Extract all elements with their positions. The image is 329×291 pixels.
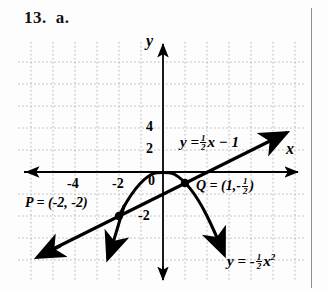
parabola-eq-exponent: 2 [271,252,276,262]
parabola-eq-lhs: y = - [227,253,255,269]
y-tick-2: 2 [146,141,153,157]
page-edge-rule [311,8,312,288]
y-axis-label: y [146,32,153,50]
x-tick-0: 0 [148,173,155,189]
point-Q-rhs: ) [249,178,254,193]
x-tick-neg2: -2 [112,176,124,192]
line-eq-fraction: 12 [200,134,207,152]
point-Q-sign: - [236,178,241,193]
point-P-label: P = (-2, -2) [25,195,88,211]
parabola-eq-rhs: x [263,253,271,269]
point-Q-numerator: 1 [242,177,249,186]
parabola-eq-fraction: 12 [256,253,263,271]
coordinate-graph: y x 4 2 -2 -4 -2 0 y =12x − 1 y = -12x2 … [0,30,311,288]
y-tick-4: 4 [146,119,153,135]
line-eq-rhs: x − 1 [207,134,239,150]
x-tick-neg4: -4 [67,176,79,192]
point-Q-label: Q = (1,-12) [196,178,254,196]
problem-number: 13. [24,8,47,28]
line-equation-label: y =12x − 1 [180,134,239,153]
line-left-arrow [38,246,60,257]
parabola-eq-numerator: 1 [256,253,263,262]
line-eq-denominator: 2 [200,142,207,152]
x-axis-label: x [286,140,294,158]
parabola-equation-label: y = -12x2 [227,252,275,272]
line-eq-numerator: 1 [200,134,207,143]
point-P-marker [115,212,123,220]
worksheet-page: 13.a. [0,0,329,291]
point-Q-denominator: 2 [242,186,249,196]
point-Q-marker [181,179,189,187]
line-eq-lhs: y = [180,134,199,150]
y-tick-neg2: -2 [138,208,150,224]
problem-part: a. [56,8,70,28]
point-Q-lhs: Q = (1, [196,178,236,193]
point-Q-fraction: 12 [242,177,249,195]
page-title: 13.a. [24,8,70,28]
parabola-eq-denominator: 2 [256,261,263,271]
graph-svg [0,30,311,288]
